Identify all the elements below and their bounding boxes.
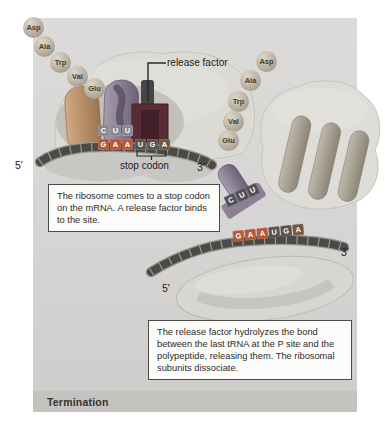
nucleotide: C <box>98 125 109 136</box>
step1-caption-text: The ribosome comes to a stop codon on th… <box>57 191 210 225</box>
nucleotide: A <box>256 227 268 239</box>
stop-codon-label: stop codon <box>120 160 169 171</box>
small-ribosomal-subunit-2 <box>173 247 357 330</box>
stop-codon-row: U G A <box>135 139 170 150</box>
amino-acid-glu-1: Glu <box>84 78 105 99</box>
termination-label: Termination <box>47 396 109 408</box>
nucleotide: U <box>268 226 280 238</box>
nucleotide: G <box>147 139 158 150</box>
amino-acid-ala-1: Ala <box>34 36 55 57</box>
amino-acid-asp-1: Asp <box>23 17 44 38</box>
nucleotide: G <box>280 225 292 237</box>
p-site-anticodon-row: C U U <box>98 125 133 136</box>
step1-caption-box: The ribosome comes to a stop codon on th… <box>48 184 220 232</box>
amino-acid-asp-2: Asp <box>256 51 277 72</box>
five-prime-label-1: 5′ <box>15 159 23 171</box>
glu-codon-row: G A A <box>98 139 133 150</box>
nucleotide: G <box>232 230 244 242</box>
nucleotide: U <box>122 125 133 136</box>
step2-caption-box: The release factor hydrolyzes the bond b… <box>148 320 352 380</box>
step2-caption-text: The release factor hydrolyzes the bond b… <box>157 327 335 373</box>
three-prime-label-1: 3′ <box>197 161 205 173</box>
nucleotide: A <box>110 139 121 150</box>
release-factor-label: release factor <box>167 57 228 68</box>
amino-acid-glu-2: Glu <box>218 130 239 151</box>
amino-acid-trp-2: Trp <box>228 91 249 112</box>
large-ribosomal-subunit-2 <box>261 81 380 209</box>
amino-acid-ala-2: Ala <box>240 70 261 91</box>
amino-acid-val-2: Val <box>223 111 244 132</box>
termination-bar: Termination <box>33 391 357 412</box>
nucleotide: A <box>244 229 256 241</box>
nucleotide: A <box>292 224 304 236</box>
five-prime-label-2: 5′ <box>162 282 170 294</box>
nucleotide: U <box>110 125 121 136</box>
nucleotide: G <box>98 139 109 150</box>
nucleotide: U <box>135 139 146 150</box>
nucleotide: A <box>122 139 133 150</box>
three-prime-label-2: 3′ <box>341 246 349 258</box>
figure-termination: Asp Ala Trp Val Glu Asp Ala Trp Val Glu … <box>0 0 387 429</box>
nucleotide: A <box>159 139 170 150</box>
